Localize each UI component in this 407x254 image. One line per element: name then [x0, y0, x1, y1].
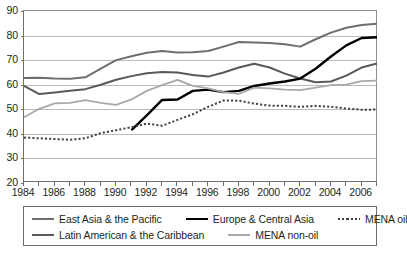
y-tick-label: 50 [0, 103, 18, 114]
legend-item[interactable]: East Asia & the Pacific [32, 214, 162, 225]
series-line [24, 100, 377, 139]
y-tick-label: 90 [0, 5, 18, 16]
x-tick-label: 2006 [344, 187, 378, 198]
x-tick-mark [176, 182, 177, 186]
x-tick-label: 1988 [67, 187, 101, 198]
series-lines [24, 11, 378, 183]
x-tick-mark [376, 182, 377, 186]
x-tick-label: 2000 [252, 187, 286, 198]
legend-item[interactable]: MENA non-oil [228, 230, 318, 241]
x-tick-mark [23, 182, 24, 186]
legend-swatch-icon [32, 230, 54, 240]
x-tick-label: 1998 [221, 187, 255, 198]
x-tick-mark [253, 182, 254, 186]
x-tick-label: 1986 [37, 187, 71, 198]
x-tick-label: 2002 [282, 187, 316, 198]
x-tick-label: 1990 [98, 187, 132, 198]
x-tick-mark [84, 182, 85, 186]
legend-label: Europe & Central Asia [213, 214, 314, 225]
y-tick-label: 60 [0, 79, 18, 90]
y-tick-label: 70 [0, 54, 18, 65]
legend-swatch-icon [338, 214, 360, 224]
legend-swatch-icon [186, 214, 208, 224]
y-tick-label: 30 [0, 152, 18, 163]
chart-legend: East Asia & the PacificEurope & Central … [23, 206, 377, 246]
x-tick-label: 1984 [6, 187, 40, 198]
legend-swatch-icon [228, 230, 250, 240]
x-tick-label: 2004 [313, 187, 347, 198]
legend-row: East Asia & the PacificEurope & Central … [24, 211, 376, 227]
series-line [24, 24, 377, 79]
y-tick-label: 80 [0, 30, 18, 41]
y-tick-label: 40 [0, 128, 18, 139]
x-axis: 1984198619881990199219941996199820002002… [23, 182, 377, 204]
x-tick-mark [130, 182, 131, 186]
x-tick-mark [330, 182, 331, 186]
x-tick-mark [284, 182, 285, 186]
x-tick-mark [146, 182, 147, 186]
x-tick-mark [315, 182, 316, 186]
x-tick-mark [207, 182, 208, 186]
x-tick-mark [54, 182, 55, 186]
x-tick-mark [269, 182, 270, 186]
x-tick-mark [100, 182, 101, 186]
x-tick-label: 1992 [129, 187, 163, 198]
x-tick-mark [161, 182, 162, 186]
plot-area [23, 10, 377, 182]
x-tick-mark [192, 182, 193, 186]
legend-label: MENA non-oil [255, 230, 318, 241]
legend-item[interactable]: MENA oil [338, 214, 407, 225]
legend-row: Latin American & the CaribbeanMENA non-o… [24, 227, 376, 243]
x-tick-label: 1994 [159, 187, 193, 198]
x-tick-mark [38, 182, 39, 186]
legend-swatch-icon [32, 214, 54, 224]
x-tick-mark [361, 182, 362, 186]
x-tick-mark [299, 182, 300, 186]
x-tick-mark [69, 182, 70, 186]
x-tick-mark [223, 182, 224, 186]
legend-item[interactable]: Europe & Central Asia [186, 214, 314, 225]
x-tick-mark [345, 182, 346, 186]
legend-item[interactable]: Latin American & the Caribbean [32, 230, 204, 241]
legend-label: Latin American & the Caribbean [59, 230, 204, 241]
legend-label: East Asia & the Pacific [59, 214, 162, 225]
x-tick-label: 1996 [190, 187, 224, 198]
x-tick-mark [238, 182, 239, 186]
legend-label: MENA oil [365, 214, 407, 225]
x-tick-mark [115, 182, 116, 186]
